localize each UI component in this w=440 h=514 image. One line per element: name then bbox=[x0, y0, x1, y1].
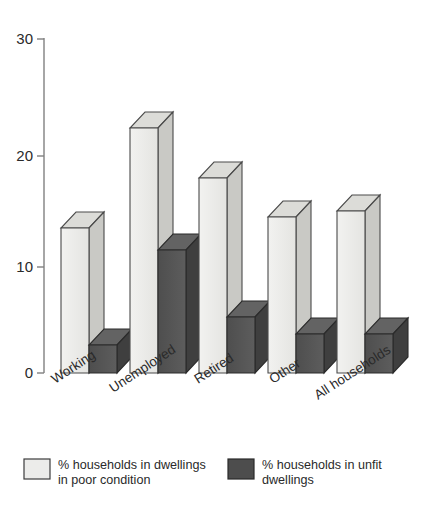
chart-canvas: 30 20 10 0 bbox=[0, 0, 440, 514]
legend-swatch-poor-condition bbox=[24, 459, 50, 479]
bar-group-other bbox=[268, 201, 339, 373]
bar-group-working bbox=[61, 212, 132, 373]
bar-group-all-households bbox=[337, 195, 408, 373]
legend-label-poor-condition-line2: in poor condition bbox=[58, 473, 150, 487]
legend-item-poor-condition[interactable]: % households in dwellings in poor condit… bbox=[24, 458, 206, 487]
legend: % households in dwellings in poor condit… bbox=[24, 458, 382, 487]
legend-swatch-unfit bbox=[228, 459, 254, 479]
legend-label-unfit-line2: dwellings bbox=[262, 473, 314, 487]
legend-label-unfit-line1: % households in unfit bbox=[262, 458, 382, 472]
bar-chart: 30 20 10 0 bbox=[0, 0, 440, 514]
legend-label-poor-condition-line1: % households in dwellings bbox=[58, 458, 206, 472]
bar-group-retired bbox=[199, 162, 270, 373]
bar-group-unemployed bbox=[130, 112, 201, 373]
y-tick-label-20: 20 bbox=[16, 147, 33, 164]
y-tick-label-10: 10 bbox=[16, 258, 33, 275]
legend-item-unfit[interactable]: % households in unfit dwellings bbox=[228, 458, 382, 487]
y-axis: 30 20 10 0 bbox=[16, 30, 44, 381]
y-tick-label-0: 0 bbox=[25, 364, 33, 381]
y-tick-label-30: 30 bbox=[16, 30, 33, 47]
